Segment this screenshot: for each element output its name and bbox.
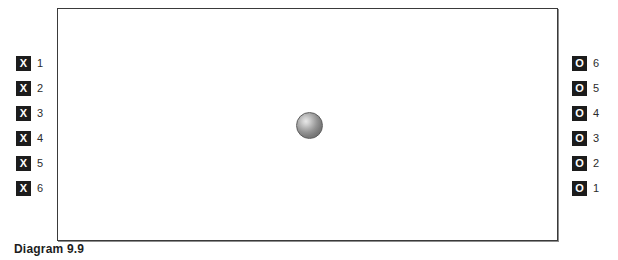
o-marker-badge: O xyxy=(572,106,587,121)
list-item: O 2 xyxy=(572,155,599,171)
list-item: O 1 xyxy=(572,180,599,196)
x-marker-number: 6 xyxy=(37,181,43,196)
x-marker-badge: X xyxy=(16,131,31,146)
o-marker-badge: O xyxy=(572,81,587,96)
o-marker-number: 3 xyxy=(593,131,599,146)
x-marker-number: 2 xyxy=(37,81,43,96)
o-player-column: O 6 O 5 O 4 O 3 O 2 O 1 xyxy=(572,55,599,196)
list-item: X 5 xyxy=(16,155,43,171)
x-marker-number: 5 xyxy=(37,156,43,171)
o-marker-number: 2 xyxy=(593,156,599,171)
list-item: X 4 xyxy=(16,130,43,146)
x-marker-badge: X xyxy=(16,56,31,71)
ball-icon xyxy=(296,112,323,139)
x-marker-badge: X xyxy=(16,106,31,121)
list-item: X 6 xyxy=(16,180,43,196)
o-marker-badge: O xyxy=(572,131,587,146)
x-marker-badge: X xyxy=(16,181,31,196)
o-marker-number: 4 xyxy=(593,106,599,121)
diagram-page: X 1 X 2 X 3 X 4 X 5 X 6 O 6 O 5 xyxy=(0,0,618,260)
x-marker-number: 4 xyxy=(37,131,43,146)
list-item: X 3 xyxy=(16,105,43,121)
o-marker-badge: O xyxy=(572,156,587,171)
x-marker-number: 1 xyxy=(37,56,43,71)
list-item: O 6 xyxy=(572,55,599,71)
diagram-caption: Diagram 9.9 xyxy=(14,242,84,256)
list-item: X 1 xyxy=(16,55,43,71)
list-item: X 2 xyxy=(16,80,43,96)
list-item: O 5 xyxy=(572,80,599,96)
o-marker-number: 6 xyxy=(593,56,599,71)
x-marker-badge: X xyxy=(16,156,31,171)
x-player-column: X 1 X 2 X 3 X 4 X 5 X 6 xyxy=(16,55,43,196)
x-marker-number: 3 xyxy=(37,106,43,121)
o-marker-badge: O xyxy=(572,181,587,196)
o-marker-number: 5 xyxy=(593,81,599,96)
o-marker-number: 1 xyxy=(593,181,599,196)
list-item: O 4 xyxy=(572,105,599,121)
x-marker-badge: X xyxy=(16,81,31,96)
list-item: O 3 xyxy=(572,130,599,146)
o-marker-badge: O xyxy=(572,56,587,71)
